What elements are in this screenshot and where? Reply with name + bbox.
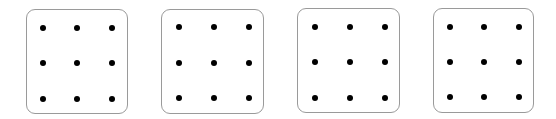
dot-icon <box>176 24 182 30</box>
dot-icon <box>246 95 252 101</box>
dot-icon <box>40 25 46 31</box>
dot-icon <box>516 24 522 30</box>
dot-icon <box>74 25 80 31</box>
dot-icon <box>516 59 522 65</box>
dot-panel-2 <box>161 9 264 114</box>
dot-icon <box>481 59 487 65</box>
dot-icon <box>211 60 217 66</box>
dot-icon <box>312 95 318 101</box>
dot-icon <box>481 94 487 100</box>
dot-icon <box>347 59 353 65</box>
dot-panel-3 <box>297 8 400 113</box>
dot-icon <box>382 24 388 30</box>
dot-icon <box>447 59 453 65</box>
dot-icon <box>246 24 252 30</box>
dot-icon <box>211 95 217 101</box>
dot-icon <box>211 24 217 30</box>
dot-icon <box>312 59 318 65</box>
dot-icon <box>176 95 182 101</box>
dot-icon <box>347 24 353 30</box>
dot-icon <box>176 60 182 66</box>
dot-icon <box>516 94 522 100</box>
dot-panel-4 <box>433 8 534 113</box>
dot-icon <box>74 96 80 102</box>
dot-icon <box>109 60 115 66</box>
dot-icon <box>382 59 388 65</box>
dot-icon <box>312 24 318 30</box>
dot-icon <box>347 95 353 101</box>
dot-icon <box>447 94 453 100</box>
dot-panel-1 <box>26 9 128 114</box>
dot-icon <box>40 96 46 102</box>
dot-icon <box>40 60 46 66</box>
dot-icon <box>447 24 453 30</box>
dot-icon <box>481 24 487 30</box>
dot-icon <box>382 95 388 101</box>
dot-icon <box>109 25 115 31</box>
dot-icon <box>74 60 80 66</box>
dot-icon <box>246 60 252 66</box>
dot-icon <box>109 96 115 102</box>
